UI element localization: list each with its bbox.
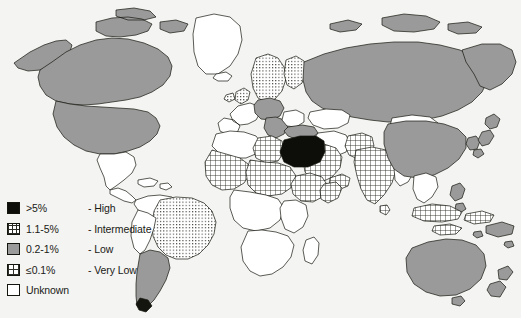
swatch-high-icon: [7, 202, 20, 214]
legend-label-very-low: Very Low: [94, 264, 136, 276]
swatch-unknown-icon: [7, 284, 20, 296]
legend-dash-intermediate: -: [88, 223, 91, 235]
region-egypt: [280, 136, 325, 167]
legend-desc-intermediate: - Intermediate: [88, 223, 151, 235]
swatch-low-icon: [7, 243, 20, 255]
legend-range-very-low: ≤0.1%: [26, 264, 88, 276]
legend-desc-very-low: - Very Low: [88, 264, 137, 276]
legend-dash-low: -: [88, 243, 91, 255]
swatch-very-low-icon: [7, 264, 20, 276]
legend-range-low: 0.2-1%: [26, 243, 88, 255]
legend-desc-low: - Low: [88, 243, 113, 255]
legend-range-high: >5%: [26, 202, 88, 214]
legend-desc-high: - High: [88, 202, 115, 214]
region-central-europe-white: [282, 110, 304, 127]
legend-label-high: High: [94, 202, 115, 214]
region-libya: [253, 136, 284, 163]
legend-row-unknown: Unknown: [7, 280, 172, 301]
legend-range-unknown: Unknown: [26, 284, 88, 296]
swatch-intermediate-icon: [7, 223, 20, 235]
prevalence-legend: >5% - High 1.1-5% - Intermediate 0.2-1% …: [7, 198, 172, 301]
legend-label-intermediate: Intermediate: [94, 223, 151, 235]
legend-label-low: Low: [94, 243, 113, 255]
legend-row-low: 0.2-1% - Low: [7, 239, 172, 260]
world-prevalence-map-figure: >5% - High 1.1-5% - Intermediate 0.2-1% …: [0, 0, 521, 318]
legend-row-intermediate: 1.1-5% - Intermediate: [7, 219, 172, 240]
legend-row-high: >5% - High: [7, 198, 172, 219]
legend-dash-high: -: [88, 202, 91, 214]
legend-row-very-low: ≤0.1% - Very Low: [7, 260, 172, 281]
legend-dash-very-low: -: [88, 264, 91, 276]
legend-range-intermediate: 1.1-5%: [26, 223, 88, 235]
